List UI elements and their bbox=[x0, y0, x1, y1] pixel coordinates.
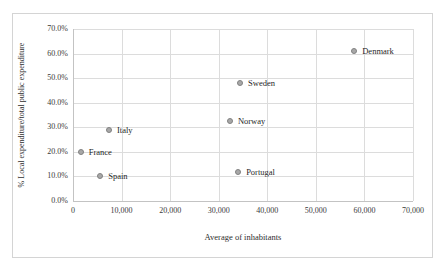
x-tick-label-30000: 30,000 bbox=[195, 206, 243, 216]
gridline-x-50000 bbox=[316, 29, 317, 201]
y-tick-label-30: 30.0% bbox=[18, 122, 68, 132]
x-axis-line bbox=[73, 201, 413, 202]
x-tick-label-20000: 20,000 bbox=[146, 206, 194, 216]
data-point-label-france: France bbox=[89, 146, 112, 158]
y-tick-label-20: 20.0% bbox=[18, 147, 68, 157]
gridline-x-70000 bbox=[413, 29, 414, 201]
x-tick-label-40000: 40,000 bbox=[243, 206, 291, 216]
x-tick-label-10000: 10,000 bbox=[98, 206, 146, 216]
data-point-label-portugal: Portugal bbox=[246, 166, 275, 178]
gridline-y-70 bbox=[73, 29, 413, 30]
data-point-label-sweden: Sweden bbox=[248, 77, 275, 89]
gridline-x-30000 bbox=[219, 29, 220, 201]
data-point-portugal bbox=[235, 169, 241, 175]
data-point-france bbox=[78, 149, 84, 155]
data-point-norway bbox=[227, 118, 233, 124]
gridline-y-40 bbox=[73, 103, 413, 104]
data-point-label-italy: Italy bbox=[117, 124, 133, 136]
x-axis-title: Average of inhabitants bbox=[73, 231, 413, 243]
data-point-label-denmark: Denmark bbox=[362, 45, 394, 57]
y-tick-label-50: 50.0% bbox=[18, 73, 68, 83]
data-point-italy bbox=[106, 127, 112, 133]
data-point-label-norway: Norway bbox=[238, 115, 265, 127]
gridline-y-50 bbox=[73, 78, 413, 79]
y-axis-line bbox=[73, 29, 74, 202]
gridline-x-20000 bbox=[170, 29, 171, 201]
y-tick-label-40: 40.0% bbox=[18, 98, 68, 108]
scatter-chart: % Local expenditure/total public expendi… bbox=[0, 0, 445, 272]
y-tick-label-70: 70.0% bbox=[18, 24, 68, 34]
x-tick-label-0: 0 bbox=[49, 206, 97, 216]
y-tick-label-0: 0.0% bbox=[18, 196, 68, 206]
y-axis-title: % Local expenditure/total public expendi… bbox=[16, 15, 28, 215]
gridline-y-20 bbox=[73, 152, 413, 153]
x-tick-label-50000: 50,000 bbox=[292, 206, 340, 216]
y-tick-label-10: 10.0% bbox=[18, 171, 68, 181]
x-tick-label-70000: 70,000 bbox=[389, 206, 437, 216]
x-tick-label-60000: 60,000 bbox=[340, 206, 388, 216]
y-tick-label-60: 60.0% bbox=[18, 49, 68, 59]
data-point-label-spain: Spain bbox=[108, 170, 127, 182]
